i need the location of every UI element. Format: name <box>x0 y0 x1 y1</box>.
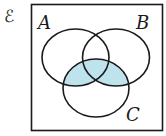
set-a-label: A <box>36 12 51 33</box>
venn-diagram: ℰ A B C <box>0 0 166 136</box>
set-c-label: C <box>126 104 140 125</box>
set-b-label: B <box>135 12 149 33</box>
universal-set-label: ℰ <box>4 6 14 26</box>
